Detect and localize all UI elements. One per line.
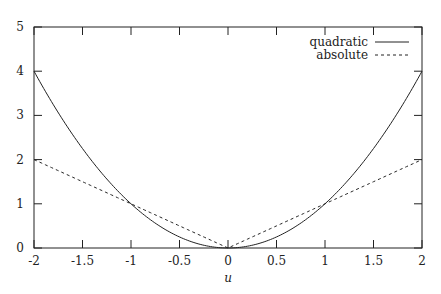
- x-tick-label: 0.5: [267, 254, 286, 268]
- y-tick-label: 2: [16, 153, 24, 167]
- x-tick-label: -2: [28, 254, 40, 268]
- x-axis-ticks: -2-1.5-1-0.500.511.52: [28, 27, 426, 268]
- x-tick-label: 2: [418, 254, 426, 268]
- y-tick-label: 4: [16, 64, 24, 78]
- x-tick-label: 1.5: [364, 254, 383, 268]
- x-tick-label: -0.5: [168, 254, 191, 268]
- x-tick-label: 1: [321, 254, 329, 268]
- series-quadratic: [34, 71, 422, 248]
- series-lines: [34, 71, 422, 248]
- y-tick-label: 0: [16, 241, 24, 255]
- legend-label-quadratic: quadratic: [309, 35, 368, 49]
- y-tick-label: 1: [16, 197, 24, 211]
- y-tick-label: 5: [16, 20, 24, 34]
- x-tick-label: -1: [125, 254, 137, 268]
- series-absolute: [34, 160, 422, 248]
- x-tick-label: 0: [224, 254, 232, 268]
- x-axis-label: u: [224, 271, 232, 285]
- legend-label-absolute: absolute: [316, 48, 368, 62]
- chart: -2-1.5-1-0.500.511.52 012345 quadraticab…: [0, 0, 441, 294]
- legend: quadraticabsolute: [309, 35, 409, 62]
- y-tick-label: 3: [16, 108, 24, 122]
- x-tick-label: -1.5: [71, 254, 94, 268]
